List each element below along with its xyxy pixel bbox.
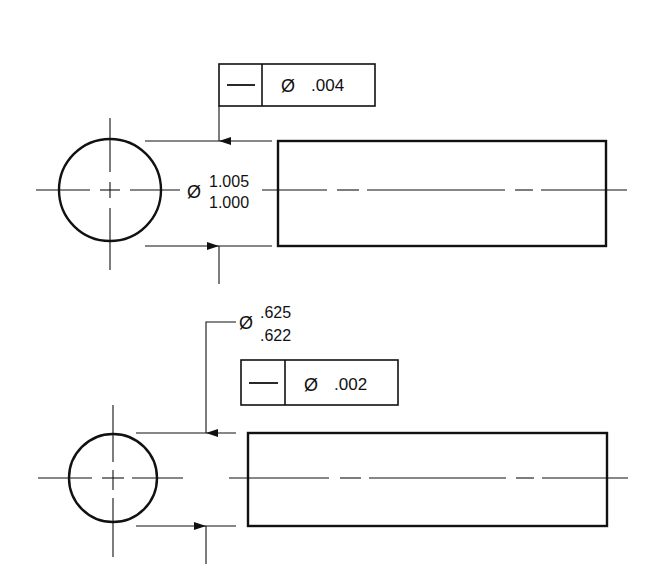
top-size-upper-limit: 1.005 [209, 173, 249, 190]
bottom-circle-centerlines [38, 405, 183, 557]
bottom-tolerance-value: .002 [334, 375, 367, 394]
bottom-feature-control-frame: Ø .002 [241, 360, 398, 405]
top-diameter-symbol: Ø [187, 182, 201, 202]
bottom-tolerance-diameter-modifier: Ø [304, 375, 318, 395]
bottom-size-lower-limit: .622 [260, 327, 291, 344]
bottom-size-upper-limit: .625 [260, 304, 291, 321]
bottom-dimension-leader [206, 322, 236, 433]
bottom-side-view-cylinder [248, 433, 607, 526]
bottom-view: Ø .625 .622 Ø .002 [38, 304, 628, 564]
top-view: Ø 1.005 1.000 Ø .004 [36, 64, 627, 284]
engineering-drawing: Ø 1.005 1.000 Ø .004 [0, 0, 652, 579]
top-tolerance-diameter-modifier: Ø [281, 76, 295, 96]
top-size-lower-limit: 1.000 [209, 194, 249, 211]
top-feature-control-frame: Ø .004 [219, 64, 375, 106]
top-side-view-cylinder [278, 141, 606, 246]
bottom-diameter-symbol: Ø [239, 313, 253, 333]
top-tolerance-value: .004 [311, 76, 344, 95]
